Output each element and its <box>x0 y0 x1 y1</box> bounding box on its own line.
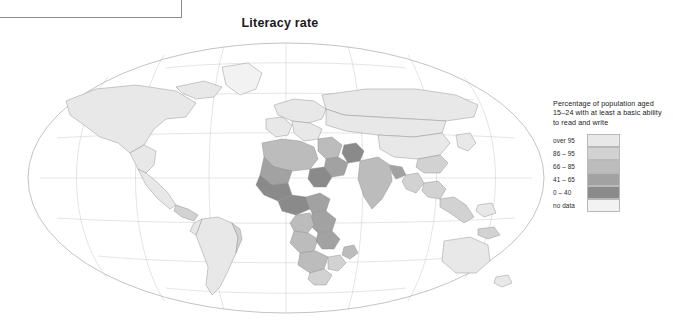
legend-swatch <box>587 186 620 199</box>
legend-title: Percentage of population aged 15–24 with… <box>553 99 665 127</box>
map-legend: Percentage of population aged 15–24 with… <box>553 99 671 212</box>
legend-label: 66 – 85 <box>553 163 587 170</box>
legend-label: over 95 <box>553 137 587 144</box>
legend-label: 0 – 40 <box>553 189 587 196</box>
legend-label: no data <box>553 202 587 209</box>
legend-swatch <box>587 147 620 160</box>
legend-swatch <box>587 134 620 147</box>
legend-item: no data <box>553 199 671 212</box>
legend-item: 66 – 85 <box>553 160 671 173</box>
legend-item: 41 – 65 <box>553 173 671 186</box>
world-map[interactable] <box>26 33 546 323</box>
legend-entries: over 95 86 – 95 66 – 85 41 – 65 0 – 40 n… <box>553 134 671 212</box>
legend-item: over 95 <box>553 134 671 147</box>
legend-label: 86 – 95 <box>553 150 587 157</box>
legend-swatch <box>587 199 620 212</box>
countries-layer <box>66 63 512 313</box>
page-title: Literacy rate <box>0 16 560 30</box>
legend-swatch <box>587 173 620 186</box>
legend-swatch <box>587 160 620 173</box>
legend-label: 41 – 65 <box>553 176 587 183</box>
legend-item: 0 – 40 <box>553 186 671 199</box>
legend-item: 86 – 95 <box>553 147 671 160</box>
